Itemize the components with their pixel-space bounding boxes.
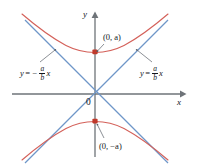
leader-vertex-bottom: [98, 125, 105, 138]
asymptote-left-lhs: y: [20, 68, 24, 78]
hyperbola-figure: y x 0 (0, a) (0, −a) y = − a b x y = a b…: [0, 0, 199, 168]
leader-asymptote-right-endpoint: [136, 49, 138, 51]
asymptote-right-formula: y = a b x: [140, 65, 163, 82]
asymptote-left-sign: −: [33, 68, 38, 78]
leader-asymptote-left-endpoint: [54, 49, 56, 51]
asymptote-left-variable: x: [46, 68, 50, 78]
vertex-bottom-dot: [92, 119, 97, 124]
x-axis-label: x: [177, 98, 181, 107]
origin-label: 0: [86, 98, 91, 108]
y-axis-label: y: [83, 10, 87, 19]
asymptote-left-equals: =: [25, 68, 30, 78]
leader-asymptote-left: [40, 50, 55, 62]
vertex-top-label: (0, a): [103, 33, 121, 42]
asymptote-right-variable: x: [159, 68, 163, 78]
asymptote-left-formula: y = − a b x: [20, 65, 50, 82]
asymptote-left-fraction: a b: [39, 65, 45, 82]
asymptote-right-lhs: y: [140, 68, 144, 78]
asymptote-left-numerator: a: [40, 65, 46, 73]
asymptote-right-equals: =: [145, 68, 150, 78]
asymptote-right-fraction: a b: [152, 65, 158, 82]
leader-vertex-bottom-endpoint: [97, 124, 99, 126]
asymptote-right-denominator: b: [152, 74, 158, 82]
vertex-bottom-label: (0, −a): [99, 142, 122, 151]
asymptote-right-numerator: a: [152, 65, 158, 73]
leader-asymptote-right: [137, 50, 152, 62]
leader-vertex-top-endpoint: [97, 50, 99, 52]
y-axis-arrowhead: [92, 12, 99, 19]
vertex-top-dot: [92, 50, 97, 55]
asymptotes-group: [25, 20, 168, 163]
asymptote-left-denominator: b: [40, 74, 46, 82]
leader-vertex-top: [98, 44, 105, 51]
